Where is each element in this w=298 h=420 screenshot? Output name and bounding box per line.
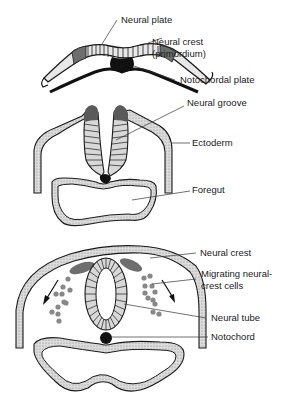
endoderm-layer [50, 69, 198, 92]
label-notochord: Notochord [211, 331, 255, 342]
label-neural-crest-primordium-2: (primordium) [152, 48, 206, 59]
label-migrating-cells-2: crest cells [201, 280, 243, 291]
label-neural-tube: Neural tube [211, 312, 260, 323]
migration-arrow-right [162, 280, 175, 303]
label-ectoderm: Ectoderm [192, 137, 233, 148]
foregut-lumen [58, 184, 151, 220]
label-neural-groove: Neural groove [187, 97, 247, 108]
neural-tube-lumen [96, 268, 116, 320]
migrating-cells-left [49, 276, 72, 323]
neural-crest-diagram: Neural plate Neural crest (primordium) N… [0, 0, 298, 420]
label-notochordal-plate: Notochordal plate [180, 74, 254, 85]
neural-crest-right-cap [114, 105, 128, 122]
label-neural-crest: Neural crest [200, 247, 252, 258]
label-neural-crest-primordium-1: Neural crest [152, 36, 204, 47]
label-neural-plate: Neural plate [121, 14, 172, 25]
label-migrating-cells-1: Migrating neural- [201, 268, 272, 279]
crest-primordium-left [72, 46, 86, 64]
notochord [100, 332, 112, 344]
stage-2-neural-groove-section [34, 105, 172, 226]
neural-crest-left-cap [84, 105, 98, 122]
stage-3-neural-tube-section [16, 246, 206, 391]
label-foregut: Foregut [192, 184, 225, 195]
